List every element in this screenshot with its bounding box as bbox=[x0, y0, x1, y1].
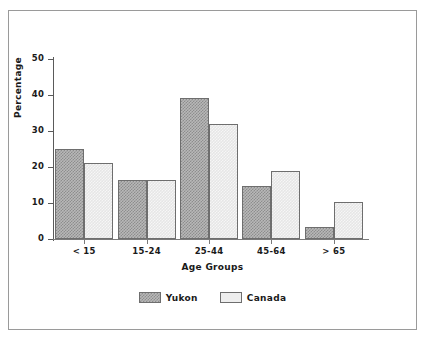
bar-canada-1 bbox=[147, 180, 176, 239]
legend-entry-canada: Canada bbox=[220, 292, 286, 303]
bar-yukon-0 bbox=[55, 149, 84, 239]
bar-canada-2 bbox=[209, 124, 238, 239]
chart-legend: YukonCanada bbox=[0, 292, 425, 303]
y-axis-tick bbox=[48, 239, 53, 240]
plot-area bbox=[53, 59, 365, 239]
x-axis-tick bbox=[271, 239, 272, 244]
bar-yukon-4 bbox=[305, 227, 334, 239]
bar-yukon-3 bbox=[242, 186, 271, 239]
legend-label-canada: Canada bbox=[247, 293, 286, 303]
x-axis-tick bbox=[147, 239, 148, 244]
bar-canada-3 bbox=[271, 171, 300, 239]
bar-canada-0 bbox=[84, 163, 113, 239]
legend-entry-yukon: Yukon bbox=[139, 292, 198, 303]
x-axis-tick bbox=[209, 239, 210, 244]
y-axis-tick-label: 20 bbox=[16, 161, 44, 171]
x-axis-tick bbox=[84, 239, 85, 244]
legend-swatch-yukon bbox=[139, 292, 161, 303]
bar-canada-4 bbox=[334, 202, 363, 239]
legend-label-yukon: Yukon bbox=[166, 293, 198, 303]
legend-swatch-canada bbox=[220, 292, 242, 303]
x-axis-line bbox=[53, 239, 369, 240]
y-axis-tick-label: 10 bbox=[16, 197, 44, 207]
bar-yukon-1 bbox=[118, 180, 147, 239]
x-axis-tick bbox=[334, 239, 335, 244]
bar-yukon-2 bbox=[180, 98, 209, 239]
chart-figure: 01020304050 < 1515-2425-4445-64> 65 Perc… bbox=[0, 0, 425, 345]
y-axis-tick-label: 30 bbox=[16, 125, 44, 135]
x-axis-title: Age Groups bbox=[0, 262, 425, 272]
y-axis-title: Percentage bbox=[13, 57, 23, 118]
y-axis-tick-label: 0 bbox=[16, 233, 44, 243]
x-axis-tick-label: > 65 bbox=[294, 246, 374, 256]
